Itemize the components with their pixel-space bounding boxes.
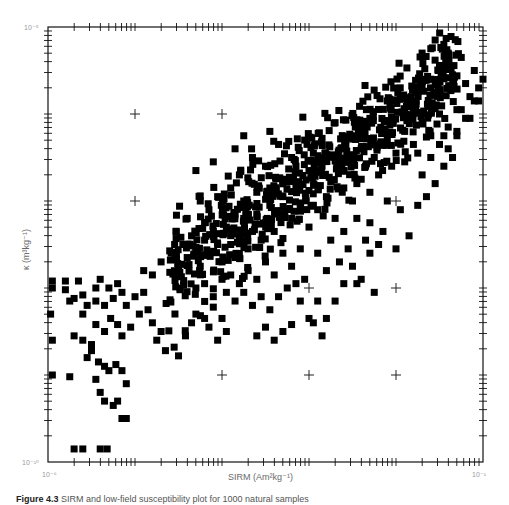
data-points	[47, 29, 486, 452]
y-axis-title: κ (m³kg⁻¹)	[21, 229, 31, 270]
y-min-label: 10⁻¹⁰	[22, 459, 39, 466]
y-max-label: 10⁻⁵	[24, 24, 39, 31]
caption-text: SIRM and low-field susceptibility plot f…	[61, 494, 309, 504]
figure-caption: Figure 4.3 SIRM and low-field susceptibi…	[16, 494, 506, 505]
caption-label: Figure 4.3	[16, 494, 59, 504]
scatter-chart: 10⁻⁵ 10⁻¹⁰ 10⁻⁶ 10⁻¹ SIRM (Am²kg⁻¹) κ (m…	[0, 0, 509, 505]
x-axis-title: SIRM (Am²kg⁻¹)	[228, 472, 293, 482]
x-max-label: 10⁻¹	[472, 471, 487, 478]
x-min-label: 10⁻⁶	[42, 471, 57, 478]
